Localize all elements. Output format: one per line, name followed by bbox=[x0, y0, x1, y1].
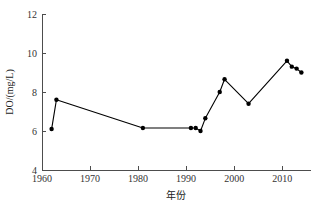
data-point-marker bbox=[198, 129, 202, 133]
y-tick-label: 12 bbox=[27, 9, 37, 20]
x-tick-label: 1970 bbox=[80, 173, 100, 184]
chart-axes bbox=[42, 14, 311, 170]
x-axis-ticks: 196019701980199020002010 bbox=[32, 166, 292, 184]
x-tick-label: 1960 bbox=[32, 173, 52, 184]
y-tick-label: 10 bbox=[27, 48, 37, 59]
x-tick-label: 1980 bbox=[128, 173, 148, 184]
data-point-marker bbox=[285, 59, 289, 63]
data-point-marker bbox=[218, 90, 222, 94]
data-point-marker bbox=[54, 98, 58, 102]
y-axis-ticks: 4681012 bbox=[27, 9, 46, 176]
data-point-marker bbox=[299, 70, 303, 74]
y-tick-label: 8 bbox=[32, 87, 37, 98]
data-point-marker bbox=[203, 116, 207, 120]
data-point-marker bbox=[194, 126, 198, 130]
x-tick-label: 2000 bbox=[224, 173, 244, 184]
x-tick-label: 2010 bbox=[272, 173, 292, 184]
line-chart: 4681012 196019701980199020002010 DO/(mg/… bbox=[0, 0, 316, 204]
data-point-marker bbox=[141, 126, 145, 130]
data-point-marker bbox=[294, 66, 298, 70]
x-axis-title: 年份 bbox=[166, 189, 186, 201]
data-point-marker bbox=[246, 102, 250, 106]
y-axis-title: DO/(mg/L) bbox=[4, 69, 16, 115]
x-tick-label: 1990 bbox=[176, 173, 196, 184]
data-point-marker bbox=[290, 64, 294, 68]
y-tick-label: 6 bbox=[32, 126, 37, 137]
chart-container: 4681012 196019701980199020002010 DO/(mg/… bbox=[0, 0, 316, 204]
data-point-marker bbox=[49, 127, 53, 131]
series-polyline bbox=[52, 61, 302, 131]
data-point-marker bbox=[222, 77, 226, 81]
data-point-marker bbox=[189, 126, 193, 130]
data-series bbox=[49, 59, 303, 134]
